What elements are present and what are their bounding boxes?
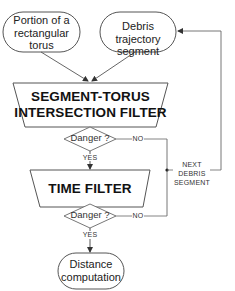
distance-line-2: computation <box>58 271 124 284</box>
torus-line-1: Portion of a <box>3 14 80 27</box>
distance-line-1: Distance <box>58 258 124 271</box>
yes2-label: YES <box>80 231 100 239</box>
loop-line-3: SEGMENT <box>172 178 212 187</box>
loop-line-2: DEBRIS <box>172 169 212 178</box>
segment-input-label: Debris trajectory segment <box>100 20 176 58</box>
no1-label: NO <box>130 135 146 143</box>
torus-line-2: rectangular <box>3 27 80 40</box>
segment-line-1: Debris trajectory <box>100 20 176 45</box>
segment-torus-filter-label: SEGMENT-TORUS INTERSECTION FILTER <box>13 89 168 121</box>
filter1-line-1: SEGMENT-TORUS <box>13 89 168 105</box>
danger2-label: Danger ? <box>64 210 116 221</box>
danger1-label: Danger ? <box>64 133 116 144</box>
segment-line-2: segment <box>100 45 176 58</box>
time-filter-label: TIME FILTER <box>30 181 150 197</box>
loop-line-1: NEXT <box>172 160 212 169</box>
next-debris-segment-label: NEXT DEBRIS SEGMENT <box>172 160 212 187</box>
no2-label: NO <box>130 212 146 220</box>
distance-label: Distance computation <box>58 258 124 283</box>
filter1-line-2: INTERSECTION FILTER <box>13 105 168 121</box>
connector-torus-to-filter <box>41 52 88 81</box>
yes1-label: YES <box>80 154 100 162</box>
torus-input-label: Portion of a rectangular torus <box>3 14 80 52</box>
torus-line-3: torus <box>3 39 80 52</box>
